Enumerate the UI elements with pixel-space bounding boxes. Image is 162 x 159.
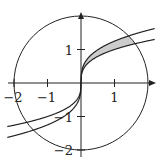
- ticks: −2−111−1−2: [3, 43, 118, 159]
- shaded-region: [81, 36, 135, 83]
- x-axis-arrow-icon: [149, 80, 156, 86]
- diagram: −2−111−1−2: [0, 0, 162, 159]
- y-tick-label: −1: [54, 110, 73, 125]
- y-tick-label: −2: [54, 143, 73, 158]
- x-tick-label: −1: [37, 90, 56, 105]
- x-tick-label: −2: [3, 90, 22, 105]
- y-tick-label: 1: [65, 43, 73, 58]
- x-tick-label: 1: [110, 90, 118, 105]
